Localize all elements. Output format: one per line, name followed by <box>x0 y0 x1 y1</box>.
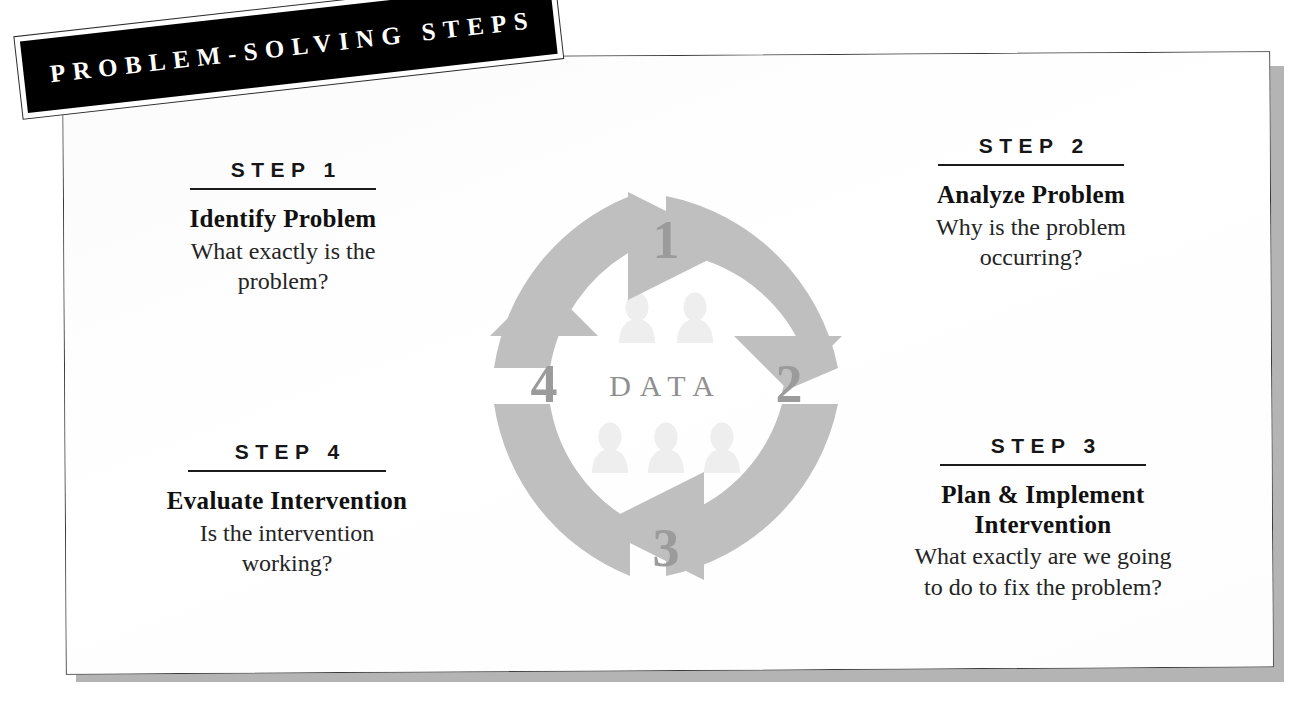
step-1-body: What exactly is the problem? <box>118 236 448 297</box>
step-1-title: Identify Problem <box>118 204 448 234</box>
step-1-body-line1: What exactly is the <box>118 236 448 267</box>
step-2-body-line2: occurring? <box>866 242 1196 273</box>
people-silhouettes-top <box>619 293 713 344</box>
step-3-block: STEP 3 Plan & Implement Intervention Wha… <box>862 434 1224 602</box>
cycle-number-4: 4 <box>531 354 558 414</box>
step-4-body-line2: working? <box>112 548 462 579</box>
step-3-body-line1: What exactly are we going <box>862 541 1224 572</box>
problem-solving-cycle: DATA 1 2 3 4 <box>452 106 872 626</box>
step-3-title-line2: Intervention <box>862 510 1224 540</box>
cycle-number-3: 3 <box>653 518 680 578</box>
step-1-body-line2: problem? <box>118 266 448 297</box>
step-2-rule <box>938 164 1124 166</box>
step-2-title: Analyze Problem <box>866 180 1196 210</box>
step-3-body: What exactly are we going to do to fix t… <box>862 541 1224 602</box>
step-4-block: STEP 4 Evaluate Intervention Is the inte… <box>112 440 462 579</box>
step-1-block: STEP 1 Identify Problem What exactly is … <box>118 158 448 297</box>
step-2-block: STEP 2 Analyze Problem Why is the proble… <box>866 134 1196 273</box>
step-3-rule <box>940 464 1146 466</box>
step-4-kicker: STEP 4 <box>112 440 462 464</box>
poster: PROBLEM-SOLVING STEPS DATA <box>0 0 1311 710</box>
step-3-kicker: STEP 3 <box>862 434 1224 458</box>
step-3-body-line2: to do to fix the problem? <box>862 572 1224 603</box>
step-4-rule <box>188 470 386 472</box>
step-4-body: Is the intervention working? <box>112 518 462 579</box>
step-2-body: Why is the problem occurring? <box>866 212 1196 273</box>
step-1-rule <box>190 188 376 190</box>
cycle-number-1: 1 <box>653 210 680 270</box>
step-4-body-line1: Is the intervention <box>112 518 462 549</box>
step-3-title-line1: Plan & Implement <box>862 480 1224 510</box>
people-silhouettes-bottom <box>592 423 740 474</box>
cycle-center-label: DATA <box>609 369 723 402</box>
step-2-body-line1: Why is the problem <box>866 212 1196 243</box>
step-1-kicker: STEP 1 <box>118 158 448 182</box>
cycle-number-2: 2 <box>776 354 803 414</box>
cycle-arrow-4 <box>494 196 630 368</box>
step-4-title: Evaluate Intervention <box>112 486 462 516</box>
step-3-title: Plan & Implement Intervention <box>862 480 1224 539</box>
step-2-kicker: STEP 2 <box>866 134 1196 158</box>
